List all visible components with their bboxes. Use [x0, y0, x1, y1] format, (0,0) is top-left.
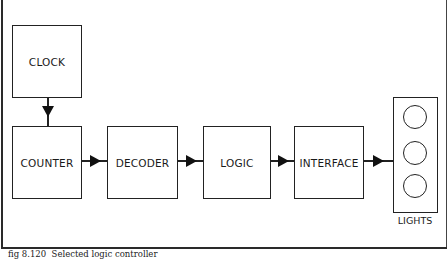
- clock-label: CLOCK: [29, 56, 65, 68]
- arrow-right-icon: [90, 155, 101, 167]
- figure-caption: fig 8.120 Selected logic controller: [8, 249, 157, 259]
- decoder-label: DECODER: [116, 157, 170, 169]
- figure-number: fig 8.120: [8, 249, 46, 259]
- counter-block: COUNTER: [12, 126, 82, 199]
- decoder-block: DECODER: [107, 126, 178, 199]
- logic-block: LOGIC: [203, 126, 271, 199]
- lamp-top-icon: [403, 105, 427, 129]
- logic-label: LOGIC: [220, 157, 253, 169]
- lights-label: LIGHTS: [386, 215, 444, 226]
- arrow-right-icon: [186, 155, 197, 167]
- clock-block: CLOCK: [12, 25, 82, 98]
- lamp-bottom-icon: [403, 174, 427, 198]
- lamp-middle-icon: [403, 141, 427, 165]
- counter-label: COUNTER: [21, 157, 74, 169]
- arrow-down-icon: [42, 106, 54, 117]
- frame-right-border: [446, 0, 447, 249]
- figure-title: Selected logic controller: [52, 249, 158, 259]
- frame-left-border: [1, 0, 3, 249]
- arrow-right-icon: [278, 155, 289, 167]
- interface-label: INTERFACE: [299, 157, 358, 169]
- arrow-right-icon: [373, 155, 384, 167]
- interface-block: INTERFACE: [294, 126, 364, 199]
